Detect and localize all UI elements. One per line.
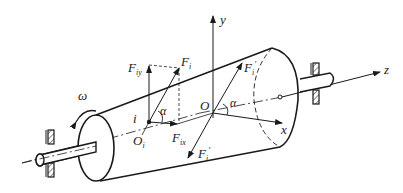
x-axis — [213, 113, 282, 123]
alpha-arc-center — [223, 104, 228, 115]
y-axis-label: y — [218, 12, 226, 27]
roller-diagram: z ω — [0, 0, 403, 193]
fi-prime-upper-label: Fi′ — [243, 59, 257, 77]
oi-label: Oi — [133, 133, 145, 150]
oi-radius-line — [142, 122, 149, 135]
diagram-canvas: z ω — [0, 0, 403, 193]
right-shaft — [278, 73, 334, 99]
origin-label: O — [200, 98, 210, 113]
point-i-label: i — [133, 111, 137, 126]
z-axis-label: z — [383, 62, 389, 77]
alpha-center-label: α — [230, 96, 237, 110]
fix-label: Fix — [171, 130, 186, 147]
x-axis-label: x — [280, 122, 287, 137]
fiy-label: Fiy — [127, 60, 142, 77]
omega-label: ω — [78, 88, 87, 103]
fi-label: Fi — [180, 54, 191, 71]
alpha-left-label: α — [160, 104, 167, 118]
